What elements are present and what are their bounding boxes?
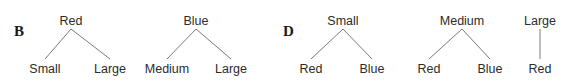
panel-label-b: B — [14, 24, 24, 39]
tree-leaf-node: Large — [215, 63, 247, 76]
tree-leaf-node: Red — [418, 63, 441, 76]
tree-leaf-node: Red — [300, 63, 323, 76]
tree-edge — [462, 29, 490, 59]
tree-leaf-node: Medium — [145, 63, 189, 76]
tree-leaf-node: Large — [94, 63, 126, 76]
tree-root-node: Large — [524, 15, 556, 28]
tree-edge — [343, 29, 372, 59]
tree-edge — [167, 29, 196, 59]
tree-diagram-figure: BRedSmallLargeBlueMediumLargeDSmallRedBl… — [0, 0, 570, 84]
tree-leaf-node: Red — [529, 63, 552, 76]
tree-leaf-node: Small — [29, 63, 60, 76]
tree-root-node: Medium — [440, 15, 484, 28]
tree-root-node: Blue — [183, 15, 208, 28]
tree-edge — [311, 29, 343, 59]
tree-leaf-node: Blue — [477, 63, 502, 76]
tree-edge — [71, 29, 110, 59]
tree-edge — [196, 29, 231, 59]
tree-leaf-node: Blue — [359, 63, 384, 76]
tree-edge — [429, 29, 462, 59]
tree-root-node: Small — [327, 15, 358, 28]
tree-edge — [45, 29, 71, 59]
panel-label-d: D — [283, 24, 294, 39]
tree-root-node: Red — [60, 15, 83, 28]
